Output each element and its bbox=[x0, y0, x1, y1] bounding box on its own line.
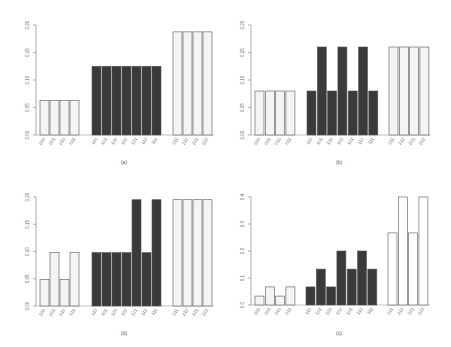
x-tick-label: 120 bbox=[326, 136, 335, 145]
x-tick-label: 221 bbox=[191, 307, 200, 316]
x-tick-label: 000 bbox=[38, 307, 47, 316]
x-tick-label: 120 bbox=[110, 307, 119, 316]
x-tick-label: 011 bbox=[284, 306, 292, 315]
x-tick-label: 222 bbox=[201, 136, 210, 145]
bar-011 bbox=[286, 91, 295, 135]
bar-120 bbox=[327, 287, 336, 305]
bar-000 bbox=[40, 279, 49, 306]
x-tick-label: 010 bbox=[58, 307, 67, 316]
x-tick-label: 111 bbox=[150, 307, 158, 316]
bar-221 bbox=[193, 32, 202, 135]
bar-222 bbox=[203, 200, 212, 306]
bar-102 bbox=[122, 253, 131, 306]
y-tick-label: 0.00 bbox=[25, 301, 30, 310]
bar-000 bbox=[255, 91, 264, 135]
bar-000 bbox=[255, 296, 264, 305]
x-tick-label: 101 bbox=[314, 306, 323, 315]
y-tick-label: 0.15 bbox=[240, 48, 245, 57]
bar-010 bbox=[60, 279, 69, 306]
y-tick-label: 0.3 bbox=[240, 220, 245, 227]
bar-211 bbox=[173, 32, 182, 135]
bar-221 bbox=[193, 200, 202, 306]
x-tick-label: 011 bbox=[284, 136, 292, 145]
y-tick-label: 0.00 bbox=[240, 130, 245, 139]
x-tick-label: 111 bbox=[150, 136, 158, 145]
x-tick-label: 110 bbox=[304, 306, 312, 315]
bar-011 bbox=[70, 253, 79, 306]
bar-120 bbox=[112, 66, 121, 135]
bar-101 bbox=[316, 269, 325, 305]
bar-chart-b: 0.000.050.100.150.2000000101001111010112… bbox=[225, 0, 451, 173]
bar-212 bbox=[399, 47, 408, 135]
bar-011 bbox=[70, 101, 79, 135]
y-tick-label: 0.20 bbox=[25, 192, 30, 201]
x-tick-label: 102 bbox=[120, 136, 129, 145]
bar-102 bbox=[337, 251, 346, 305]
x-tick-label: 000 bbox=[253, 136, 262, 145]
x-tick-label: 120 bbox=[325, 306, 334, 315]
x-tick-label: 121 bbox=[346, 136, 355, 145]
bar-010 bbox=[60, 101, 69, 135]
bar-121 bbox=[348, 91, 357, 135]
panel-caption-b: (b) bbox=[324, 159, 354, 165]
bar-112 bbox=[358, 251, 367, 305]
x-tick-label: 221 bbox=[191, 136, 200, 145]
bar-chart-c: 0.00.10.20.30.40000010100111101011201021… bbox=[225, 172, 451, 347]
bar-110 bbox=[92, 253, 101, 306]
chart-panel-d: 0.000.050.100.150.2000000101001111010112… bbox=[0, 172, 225, 345]
x-tick-label: 211 bbox=[386, 306, 394, 315]
y-tick-label: 0.10 bbox=[240, 75, 245, 84]
x-tick-label: 221 bbox=[407, 306, 416, 315]
bar-110 bbox=[92, 66, 101, 135]
x-tick-label: 111 bbox=[367, 136, 375, 145]
bar-221 bbox=[409, 233, 418, 305]
y-tick-label: 0.05 bbox=[25, 274, 30, 283]
x-tick-label: 101 bbox=[315, 136, 324, 145]
y-tick-label: 0.1 bbox=[240, 274, 245, 281]
x-tick-label: 011 bbox=[68, 136, 76, 145]
x-tick-label: 001 bbox=[48, 136, 57, 145]
bar-001 bbox=[265, 91, 274, 135]
bar-211 bbox=[388, 233, 397, 305]
x-tick-label: 112 bbox=[140, 307, 148, 316]
x-tick-label: 222 bbox=[201, 307, 210, 316]
y-tick-label: 0.05 bbox=[240, 103, 245, 112]
bar-222 bbox=[419, 197, 428, 305]
bar-121 bbox=[132, 200, 141, 306]
bar-112 bbox=[359, 47, 368, 135]
x-tick-label: 112 bbox=[356, 306, 364, 315]
bar-222 bbox=[203, 32, 212, 135]
chart-panel-a: 0.000.050.100.150.2000000101001111010112… bbox=[0, 0, 225, 173]
bar-211 bbox=[389, 47, 398, 135]
bar-011 bbox=[286, 287, 295, 305]
x-tick-label: 001 bbox=[263, 306, 272, 315]
x-tick-label: 212 bbox=[397, 136, 406, 145]
bar-001 bbox=[265, 287, 274, 305]
x-tick-label: 001 bbox=[263, 136, 272, 145]
bar-111 bbox=[368, 269, 377, 305]
bar-212 bbox=[183, 200, 192, 306]
bar-000 bbox=[40, 101, 49, 135]
x-tick-label: 212 bbox=[181, 136, 190, 145]
x-tick-label: 212 bbox=[396, 306, 405, 315]
x-tick-label: 112 bbox=[140, 136, 148, 145]
x-tick-label: 110 bbox=[90, 136, 98, 145]
x-tick-label: 000 bbox=[38, 136, 47, 145]
x-tick-label: 001 bbox=[48, 307, 57, 316]
x-tick-label: 102 bbox=[336, 136, 345, 145]
bar-001 bbox=[50, 253, 59, 306]
panel-caption-d: (d) bbox=[109, 330, 139, 336]
y-tick-label: 0.4 bbox=[240, 193, 245, 200]
bar-121 bbox=[347, 269, 356, 305]
x-tick-label: 111 bbox=[366, 306, 374, 315]
x-tick-label: 110 bbox=[90, 307, 98, 316]
bar-222 bbox=[420, 47, 429, 135]
y-tick-label: 0.05 bbox=[25, 103, 30, 112]
bar-010 bbox=[276, 296, 285, 305]
bar-112 bbox=[142, 66, 151, 135]
y-tick-label: 0.00 bbox=[25, 130, 30, 139]
x-tick-label: 010 bbox=[274, 306, 283, 315]
x-tick-label: 120 bbox=[110, 136, 119, 145]
bar-111 bbox=[152, 200, 161, 306]
x-tick-label: 102 bbox=[335, 306, 344, 315]
